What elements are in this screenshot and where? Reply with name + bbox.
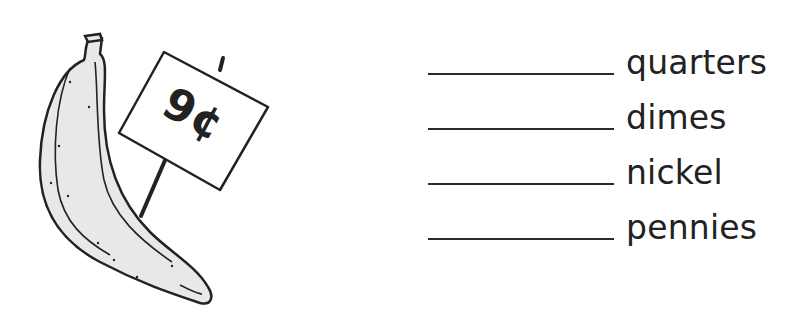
answer-blank-quarters[interactable] bbox=[428, 73, 614, 75]
answer-label-pennies: pennies bbox=[626, 211, 757, 244]
answer-label-nickel: nickel bbox=[626, 156, 723, 189]
answer-label-dimes: dimes bbox=[626, 101, 727, 134]
answer-blank-dimes[interactable] bbox=[428, 128, 614, 130]
banana-price-illustration: 9¢ bbox=[0, 0, 300, 319]
answer-label-quarters: quarters bbox=[626, 46, 767, 79]
answer-row-dimes: dimes bbox=[428, 90, 788, 130]
answer-row-quarters: quarters bbox=[428, 35, 788, 75]
answer-blank-nickel[interactable] bbox=[428, 183, 614, 185]
answer-blank-pennies[interactable] bbox=[428, 238, 614, 240]
price-sign: 9¢ bbox=[119, 52, 268, 190]
answer-row-pennies: pennies bbox=[428, 200, 788, 240]
answer-row-nickel: nickel bbox=[428, 145, 788, 185]
